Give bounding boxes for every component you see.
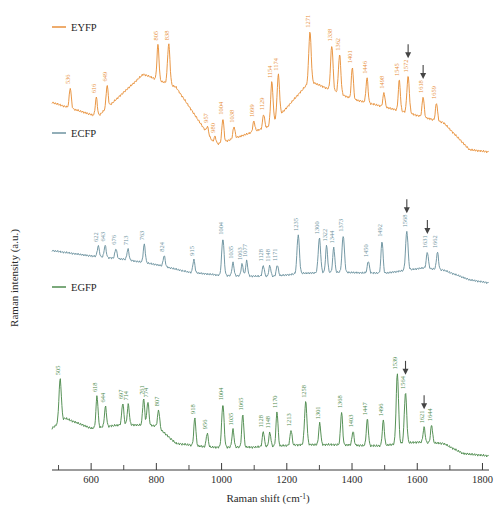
peak-label: 1004 — [217, 101, 224, 115]
peak-label: 1344 — [328, 230, 335, 244]
peak-label: 643 — [99, 232, 106, 242]
peak-label: 1659 — [430, 86, 437, 99]
legend-label-egfp: EGFP — [71, 282, 97, 293]
peak-label: 1065 — [237, 398, 244, 411]
peak-label: 957 — [202, 112, 209, 122]
peak-label: 1403 — [347, 415, 354, 428]
legend-item-ecfp: ECFP — [52, 128, 96, 139]
peak-label: 838 — [163, 31, 170, 41]
legend-item-eyfp: EYFP — [52, 22, 97, 33]
peak-label: 1099 — [248, 104, 255, 117]
peak-arrow-marker — [424, 220, 430, 234]
peak-label: 1568 — [401, 215, 408, 228]
legend-label-eyfp: EYFP — [71, 22, 97, 33]
peak-label: 616 — [90, 84, 97, 94]
peak-label: 915 — [188, 246, 195, 256]
peak-arrow-marker — [420, 65, 426, 79]
peak-label: 824 — [158, 241, 165, 251]
raman-spectra-figure: 5366166498058389579801004103810991129115… — [0, 0, 503, 528]
peak-label: 1004 — [217, 387, 224, 401]
peak-label: 505 — [54, 366, 61, 376]
y-axis-label: Raman intensity (a.u.) — [8, 229, 21, 327]
peak-label: 1498 — [378, 76, 385, 89]
peak-label: 1496 — [377, 403, 384, 416]
peak-label: 1171 — [271, 248, 278, 261]
peak-label: 1368 — [336, 395, 343, 408]
x-axis-tick-label: 1400 — [342, 474, 363, 485]
peak-label: 1077 — [241, 243, 248, 257]
x-axis-label: Raman shift (cm-1) — [226, 492, 310, 505]
x-axis-tick-label: 1200 — [276, 474, 297, 485]
x-axis-label-tail: ) — [306, 492, 310, 505]
peak-label: 1539 — [391, 357, 398, 370]
peak-label: 1038 — [228, 110, 235, 123]
x-axis-tick-label: 800 — [148, 474, 164, 485]
peak-label: 1004 — [217, 221, 224, 235]
peak-label: 956 — [201, 420, 208, 430]
peak-arrow-marker — [404, 199, 410, 213]
peak-labels-group: 5366166498058389579801004103810991129115… — [54, 15, 438, 429]
x-axis-label-main: Raman shift (cm — [226, 492, 300, 505]
legend-label-ecfp: ECFP — [71, 128, 96, 139]
peak-label: 1362 — [334, 38, 341, 51]
peak-label: 1322 — [321, 229, 328, 242]
peak-label: 1258 — [300, 385, 307, 398]
peak-label: 1213 — [285, 413, 292, 426]
peak-label: 618 — [91, 383, 98, 393]
peak-label: 1271 — [304, 15, 311, 28]
x-axis: 60080010001200140016001800 — [52, 463, 493, 485]
peak-label: 1621 — [418, 411, 425, 424]
peak-label: 1631 — [421, 235, 428, 248]
peak-label: 1035 — [227, 413, 234, 426]
peak-label: 763 — [138, 231, 145, 241]
peak-label: 1572 — [402, 60, 409, 73]
peak-label: 1446 — [361, 61, 368, 74]
peak-label: 649 — [101, 72, 108, 82]
peak-label: 676 — [110, 235, 117, 245]
peak-label: 1129 — [258, 98, 265, 111]
peak-label: 1401 — [346, 50, 353, 63]
peak-label: 1235 — [292, 218, 299, 231]
peak-label: 1545 — [393, 63, 400, 76]
x-axis-tick-label: 1600 — [407, 474, 428, 485]
peak-label: 1618 — [417, 80, 424, 93]
peak-label: 1492 — [376, 224, 383, 237]
peak-label: 1170 — [271, 395, 278, 408]
peak-arrow-marker — [421, 395, 427, 409]
x-axis-tick-label: 1000 — [211, 474, 232, 485]
peak-label: 1447 — [361, 402, 368, 416]
peak-label: 1450 — [362, 244, 369, 257]
peak-label: 1148 — [264, 249, 271, 262]
peak-label: 805 — [152, 31, 159, 41]
peak-label: 1300 — [313, 221, 320, 234]
peak-label: 536 — [64, 74, 71, 84]
peak-label: 774 — [142, 387, 149, 397]
raman-plot-svg: 5366166498058389579801004103810991129115… — [0, 0, 503, 528]
peak-label: 1373 — [337, 219, 344, 232]
peak-label: 1564 — [400, 375, 407, 389]
peak-label: 1174 — [272, 57, 279, 70]
legend-item-egfp: EGFP — [52, 282, 97, 293]
peak-label: 1644 — [426, 408, 433, 422]
peak-arrow-marker — [403, 361, 409, 375]
x-axis-ticks: 60080010001200140016001800 — [59, 463, 493, 485]
peak-label: 1148 — [264, 416, 271, 429]
peak-label: 1662 — [431, 235, 438, 248]
peak-label: 807 — [153, 396, 160, 406]
peak-label: 644 — [99, 392, 106, 402]
peak-label: 980 — [209, 123, 216, 133]
x-axis-tick-label: 1800 — [472, 474, 493, 485]
peak-label: 1338 — [326, 29, 333, 42]
peak-label: 1035 — [227, 246, 234, 259]
peak-label: 918 — [189, 404, 196, 414]
peak-arrow-marker — [405, 44, 411, 58]
peak-label: 1301 — [314, 406, 321, 419]
x-axis-tick-label: 600 — [83, 474, 99, 485]
peak-label: 713 — [122, 236, 129, 246]
peak-label: 714 — [122, 390, 129, 400]
